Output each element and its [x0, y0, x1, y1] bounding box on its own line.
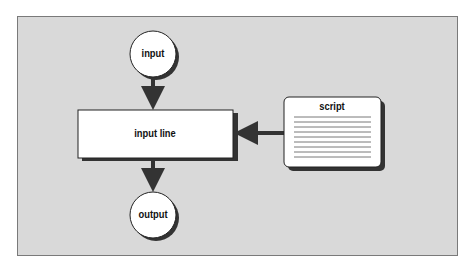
- input-label: input: [128, 47, 179, 59]
- input-line-label: input line: [113, 127, 198, 139]
- script-label: script: [307, 100, 358, 112]
- flowchart-graphics: [0, 0, 473, 266]
- output-label: output: [128, 208, 179, 220]
